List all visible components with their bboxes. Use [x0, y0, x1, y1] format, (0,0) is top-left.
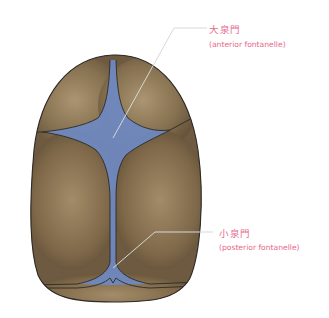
- anterior-fontanelle-label-jp: 大泉門: [209, 22, 241, 36]
- posterior-fontanelle-label-en: (posterior fontanelle): [219, 243, 300, 252]
- posterior-fontanelle-label-jp: 小泉門: [219, 226, 251, 240]
- anterior-fontanelle-label-en: (anterior fontanelle): [209, 40, 286, 49]
- skull: [24, 55, 208, 317]
